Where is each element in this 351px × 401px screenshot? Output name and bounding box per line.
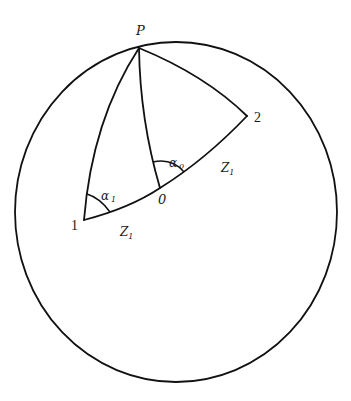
- label-z1-right: Z1: [220, 161, 234, 177]
- sphere-outline: [15, 42, 337, 382]
- label-z1-left: Z1: [119, 225, 133, 241]
- label-p: P: [135, 23, 145, 38]
- label-alpha0: α0: [169, 156, 184, 171]
- label-alpha1: α1: [101, 189, 116, 204]
- arc-p-to-2: [139, 48, 247, 116]
- label-2: 2: [254, 110, 261, 125]
- arc-p-to-o: [139, 48, 160, 188]
- spherical-diagram: P 2 1 0 α1 α0 Z1 Z1: [0, 0, 351, 401]
- label-o: 0: [158, 192, 166, 207]
- label-1: 1: [71, 218, 78, 233]
